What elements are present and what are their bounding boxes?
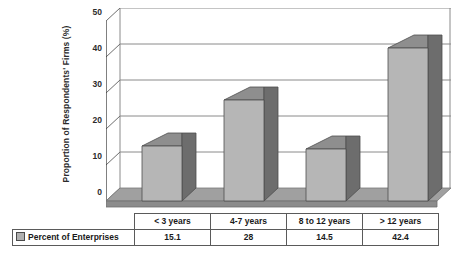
value-cell-1: 28 [211,230,287,246]
legend-label: Percent of Enterprises [28,232,119,242]
y-tick-label-20: 20 [80,115,102,125]
depth-connectors [106,8,120,201]
plot-canvas [106,8,451,210]
value-cell-0: 15.1 [135,230,211,246]
table-corner-cell [13,214,135,230]
bar-8-to-12-years [306,136,360,201]
table-row-values: Percent of Enterprises 15.1 28 14.5 42.4 [13,230,439,246]
table-row-categories: < 3 years 4-7 years 8 to 12 years > 12 y… [13,214,439,230]
category-cell-1: 4-7 years [211,214,287,230]
legend-swatch-icon [16,232,25,241]
category-cell-2: 8 to 12 years [287,214,363,230]
bar-gt-12-years [388,35,442,201]
y-tick-label-40: 40 [80,43,102,53]
legend-entry: Percent of Enterprises [13,230,135,246]
bar-lt-3-years [142,133,196,201]
y-tick-label-0: 0 [80,187,102,197]
y-axis-title: Proportion of Respondents' Firms (%) [61,9,77,199]
y-tick-label-10: 10 [80,151,102,161]
category-cell-3: > 12 years [363,214,439,230]
chart-figure: Proportion of Respondents' Firms (%) 50 … [0,0,463,262]
bar-4-7-years [224,87,278,201]
data-table: < 3 years 4-7 years 8 to 12 years > 12 y… [12,213,439,246]
value-cell-2: 14.5 [287,230,363,246]
category-cell-0: < 3 years [135,214,211,230]
y-tick-label-50: 50 [80,7,102,17]
value-cell-3: 42.4 [363,230,439,246]
plot-area [106,8,451,210]
y-tick-label-30: 30 [80,79,102,89]
